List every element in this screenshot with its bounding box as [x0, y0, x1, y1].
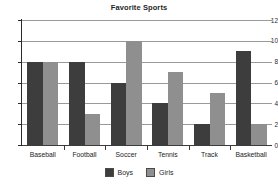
legend-swatch-boys — [105, 168, 114, 177]
bar-soccer-boys — [111, 83, 127, 146]
y-tick-mark-12 — [18, 20, 21, 21]
bar-baseball-girls — [43, 62, 59, 145]
y-tick-mark-8 — [18, 62, 21, 63]
bar-football-boys — [69, 62, 85, 145]
y-tick-mark-0 — [18, 145, 21, 146]
x-label-soccer: Soccer — [105, 150, 147, 159]
legend-entry-boys[interactable]: Boys — [105, 168, 134, 177]
bar-basketball-boys — [236, 51, 252, 145]
gridline-2 — [22, 124, 272, 125]
gridline-10 — [22, 41, 272, 42]
bar-track-boys — [194, 124, 210, 145]
legend-swatch-girls — [146, 168, 155, 177]
legend-entry-girls[interactable]: Girls — [146, 168, 173, 177]
bar-track-girls — [210, 93, 226, 145]
legend-label-boys: Boys — [118, 169, 134, 177]
legend-label-girls: Girls — [159, 169, 173, 177]
bar-tennis-boys — [152, 103, 168, 145]
gridline-12 — [22, 20, 272, 21]
bar-tennis-girls — [168, 72, 184, 145]
y-tick-mark-10 — [18, 41, 21, 42]
y-tick-mark-4 — [18, 103, 21, 104]
x-label-tennis: Tennis — [147, 150, 189, 159]
y-tick-mark-2 — [18, 124, 21, 125]
chart-legend: BoysGirls — [0, 168, 278, 177]
x-label-track: Track — [189, 150, 231, 159]
bar-chart: Favorite Sports 024681012 BaseballFootba… — [0, 0, 278, 187]
x-label-baseball: Baseball — [22, 150, 64, 159]
gridline-6 — [22, 83, 272, 84]
bar-basketball-girls — [251, 124, 267, 145]
chart-title: Favorite Sports — [0, 3, 278, 12]
gridline-4 — [22, 103, 272, 104]
bar-football-girls — [85, 114, 101, 145]
bar-baseball-boys — [27, 62, 43, 145]
plot-area — [22, 20, 272, 145]
bar-soccer-girls — [126, 41, 142, 145]
x-label-football: Football — [64, 150, 106, 159]
x-label-basketball: Basketball — [230, 150, 272, 159]
y-tick-mark-6 — [18, 83, 21, 84]
gridline-8 — [22, 62, 272, 63]
